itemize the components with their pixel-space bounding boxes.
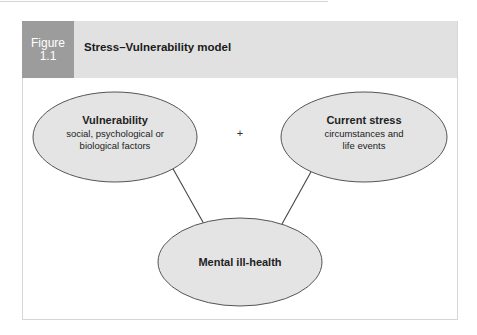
connector-vulnerability-to-ill-health: [172, 167, 204, 224]
current-stress-line2: life events: [289, 140, 439, 152]
vulnerability-node: Vulnerability social, psychological or b…: [40, 113, 190, 152]
vulnerability-heading: Vulnerability: [40, 113, 190, 127]
vulnerability-line2: biological factors: [40, 140, 190, 152]
mental-ill-health-heading: Mental ill-health: [165, 255, 315, 269]
vulnerability-line1: social, psychological or: [40, 128, 190, 140]
current-stress-node: Current stress circumstances and life ev…: [289, 113, 439, 152]
plus-operator: +: [234, 127, 246, 139]
connector-stress-to-ill-health: [282, 170, 312, 224]
mental-ill-health-node: Mental ill-health: [165, 255, 315, 270]
current-stress-heading: Current stress: [289, 113, 439, 127]
current-stress-line1: circumstances and: [289, 128, 439, 140]
diagram-canvas: [0, 0, 477, 335]
